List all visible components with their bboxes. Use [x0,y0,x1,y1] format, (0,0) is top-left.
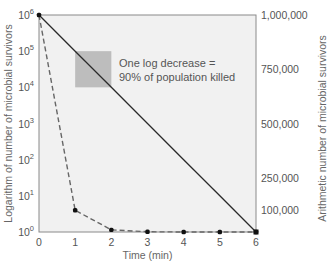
annotation-line-2: 90% of population killed [119,71,235,83]
y-tick-label: 106 [18,7,34,21]
x-tick-label: 3 [145,236,151,248]
y-tick-label: 103 [18,116,34,130]
y-axis-label-log: Logarithm of number of microbial survivo… [2,24,14,222]
y2-tick-label: 100,000 [261,204,299,216]
x-tick-label: 5 [217,236,223,248]
y-tick-label: 100 [18,224,34,238]
y2-tick-label: 500,000 [261,118,299,130]
y2-tick-label: 250,000 [261,172,299,184]
survivor-curve-chart: 100101102103104105106 1,000,000750,00050… [0,0,331,270]
x-axis-label: Time (min) [123,249,173,261]
x-tick-label: 2 [108,236,114,248]
x-tick-label: 0 [36,236,42,248]
y-tick-label: 101 [18,188,34,202]
x-axis-ticks: 0123456 [36,236,259,248]
x-tick-label: 4 [181,236,187,248]
arithmetic-y-axis-ticks: 1,000,000750,000500,000250,000100,000 [261,9,308,216]
annotation-line-1: One log decrease = [119,57,215,69]
x-tick-label: 6 [253,236,259,248]
y2-tick-label: 750,000 [261,63,299,75]
y-tick-label: 102 [18,152,34,166]
y2-tick-label: 1,000,000 [261,9,308,21]
x-tick-label: 1 [72,236,78,248]
y-tick-label: 104 [18,79,34,93]
y-axis-label-arithmetic: Arithmetic number of microbial survivors [316,35,328,222]
log-y-axis-ticks: 100101102103104105106 [18,7,34,238]
y-tick-label: 105 [18,43,34,57]
